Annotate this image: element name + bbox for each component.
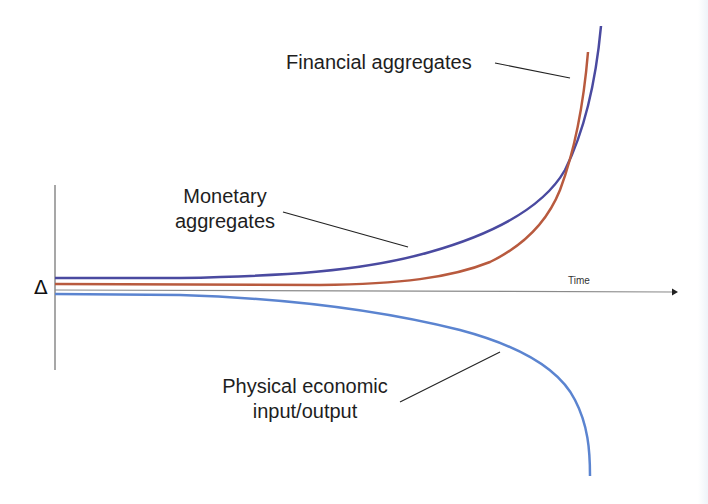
x-axis-arrow-icon bbox=[672, 289, 678, 296]
x-axis bbox=[55, 290, 672, 292]
monetary-aggregates-label: Monetary aggregates bbox=[160, 184, 290, 234]
physical-label-line2: input/output bbox=[205, 399, 405, 424]
physical-leader-line bbox=[400, 352, 500, 402]
physical-label-line1: Physical economic bbox=[205, 374, 405, 399]
financial-aggregates-curve bbox=[55, 52, 588, 285]
y-axis-delta-symbol: Δ bbox=[34, 275, 48, 299]
monetary-leader-line bbox=[283, 212, 408, 247]
physical-output-label: Physical economic input/output bbox=[205, 374, 405, 424]
monetary-label-line1: Monetary bbox=[160, 184, 290, 209]
x-axis-time-label: Time bbox=[568, 275, 590, 286]
financial-aggregates-label: Financial aggregates bbox=[286, 50, 472, 75]
monetary-label-line2: aggregates bbox=[160, 209, 290, 234]
financial-leader-line bbox=[495, 63, 570, 78]
typical-collapse-function-diagram bbox=[0, 0, 708, 504]
